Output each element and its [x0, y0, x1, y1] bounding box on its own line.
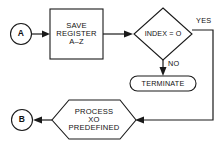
- branch-label-yes: YES: [196, 17, 212, 25]
- flowchart-diagram: A SAVE REGISTER A–Z INDEX = O TERMINATE …: [0, 0, 222, 149]
- index-decision-label: INDEX = O: [145, 30, 182, 38]
- arrowhead-into-save-register: [42, 31, 50, 38]
- save-register-line3: A–Z: [56, 38, 96, 46]
- branch-label-no: NO: [168, 60, 180, 68]
- arrowhead-into-decision: [124, 30, 133, 37]
- process-xo-label: PROCESS XO PREDEFINED: [69, 107, 120, 132]
- arrowhead-into-connector-b: [33, 116, 42, 123]
- connector-b-label: B: [19, 115, 25, 124]
- terminate-label: TERMINATE: [142, 80, 185, 88]
- process-xo-line3: PREDEFINED: [69, 124, 120, 132]
- arrowhead-into-terminate: [160, 67, 167, 76]
- save-register-label: SAVE REGISTER A–Z: [56, 22, 96, 47]
- connector-a-label: A: [18, 29, 24, 38]
